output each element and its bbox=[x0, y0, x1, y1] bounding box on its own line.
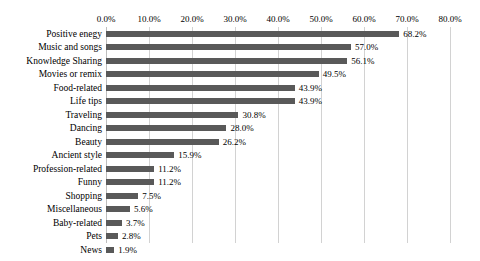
bar-row: Miscellaneous5.6% bbox=[0, 203, 480, 217]
category-label: Knowledge Sharing bbox=[26, 55, 102, 66]
category-label: Life tips bbox=[70, 96, 102, 107]
bar-row: Dancing28.0% bbox=[0, 122, 480, 136]
category-label: Funny bbox=[78, 177, 102, 188]
bar-row: Life tips43.9% bbox=[0, 95, 480, 109]
bar-value-label: 1.9% bbox=[118, 244, 137, 255]
category-label: News bbox=[80, 244, 102, 255]
bar-value-label: 11.2% bbox=[158, 163, 181, 174]
category-label: Baby-related bbox=[53, 217, 102, 228]
bar-value-label: 49.5% bbox=[323, 69, 346, 80]
bar-value-label: 56.1% bbox=[351, 55, 374, 66]
bar-value-label: 2.8% bbox=[122, 231, 141, 242]
bar bbox=[106, 112, 238, 118]
x-axis-tick-label: 40.0% bbox=[266, 12, 289, 26]
bar-row: Movies or remix49.5% bbox=[0, 68, 480, 82]
category-label: Dancing bbox=[70, 123, 102, 134]
bar bbox=[106, 233, 118, 239]
bar bbox=[106, 247, 114, 253]
bar-row: Traveling30.8% bbox=[0, 108, 480, 122]
category-label: Ancient style bbox=[52, 150, 102, 161]
x-axis-tick-label: 70.0% bbox=[395, 12, 418, 26]
bar-row: Positive enegy68.2% bbox=[0, 27, 480, 41]
x-axis-tick-label: 0.0% bbox=[97, 12, 116, 26]
bar bbox=[106, 220, 122, 226]
category-label: Miscellaneous bbox=[47, 204, 102, 215]
category-label: Pets bbox=[86, 231, 102, 242]
category-label: Food-related bbox=[53, 82, 102, 93]
category-label: Positive enegy bbox=[46, 28, 102, 39]
x-axis-tick-label: 10.0% bbox=[137, 12, 160, 26]
bar bbox=[106, 139, 219, 145]
category-label: Beauty bbox=[75, 136, 102, 147]
bar bbox=[106, 98, 295, 104]
bar bbox=[106, 58, 347, 64]
bar bbox=[106, 166, 154, 172]
x-axis-tick-label: 20.0% bbox=[180, 12, 203, 26]
bar-row: Profession-related11.2% bbox=[0, 162, 480, 176]
category-label: Movies or remix bbox=[39, 69, 102, 80]
category-label: Traveling bbox=[65, 109, 102, 120]
bar-value-label: 5.6% bbox=[134, 204, 153, 215]
bar bbox=[106, 44, 351, 50]
bar-value-label: 68.2% bbox=[403, 28, 426, 39]
bar bbox=[106, 206, 130, 212]
bar-value-label: 28.0% bbox=[230, 123, 253, 134]
bar-row: Beauty26.2% bbox=[0, 135, 480, 149]
bar-value-label: 26.2% bbox=[223, 136, 246, 147]
bar-row: Knowledge Sharing56.1% bbox=[0, 54, 480, 68]
bar-chart: 0.0%10.0%20.0%30.0%40.0%50.0%60.0%70.0%8… bbox=[0, 0, 480, 261]
bar-row: Food-related43.9% bbox=[0, 81, 480, 95]
category-label: Music and songs bbox=[38, 42, 102, 53]
bar-value-label: 43.9% bbox=[299, 96, 322, 107]
x-axis-tick-label: 80.0% bbox=[438, 12, 461, 26]
x-axis-tick-labels: 0.0%10.0%20.0%30.0%40.0%50.0%60.0%70.0%8… bbox=[0, 12, 480, 26]
bar-row: Music and songs57.0% bbox=[0, 41, 480, 55]
bar-row: News1.9% bbox=[0, 243, 480, 257]
bar bbox=[106, 125, 226, 131]
bar-value-label: 30.8% bbox=[242, 109, 265, 120]
bar-value-label: 57.0% bbox=[355, 42, 378, 53]
bar bbox=[106, 193, 138, 199]
bar bbox=[106, 85, 295, 91]
bar-row: Pets2.8% bbox=[0, 230, 480, 244]
bar-value-label: 11.2% bbox=[158, 177, 181, 188]
bar-row: Shopping7.5% bbox=[0, 189, 480, 203]
x-axis-tick-label: 30.0% bbox=[223, 12, 246, 26]
bar-value-label: 7.5% bbox=[142, 190, 161, 201]
bar bbox=[106, 71, 319, 77]
bar bbox=[106, 31, 399, 37]
category-label: Shopping bbox=[66, 190, 102, 201]
bar-row: Baby-related3.7% bbox=[0, 216, 480, 230]
bar-row: Funny11.2% bbox=[0, 176, 480, 190]
bar-value-label: 15.9% bbox=[178, 150, 201, 161]
bar-row: Ancient style15.9% bbox=[0, 149, 480, 163]
x-axis-tick-label: 50.0% bbox=[309, 12, 332, 26]
bar-value-label: 3.7% bbox=[126, 217, 145, 228]
bar-rows: Positive enegy68.2%Music and songs57.0%K… bbox=[0, 27, 480, 243]
bar-value-label: 43.9% bbox=[299, 82, 322, 93]
x-axis-tick-label: 60.0% bbox=[352, 12, 375, 26]
category-label: Profession-related bbox=[33, 163, 102, 174]
bar bbox=[106, 179, 154, 185]
bar bbox=[106, 152, 174, 158]
